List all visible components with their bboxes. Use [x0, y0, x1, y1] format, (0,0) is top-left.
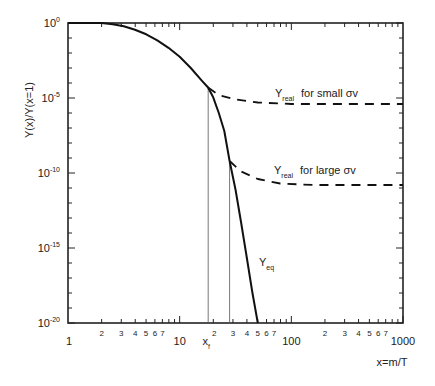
x-minor-tick-label: 5 — [367, 329, 372, 338]
x-minor-tick-label: 2 — [323, 329, 328, 338]
x-minor-tick-label: 4 — [245, 329, 250, 338]
x-minor-tick-label: 5 — [144, 329, 149, 338]
x-minor-tick-label: 2 — [212, 329, 217, 338]
chart-canvas: 234567234567234567110100100010010-510-10… — [0, 0, 435, 386]
x-minor-tick-label: 7 — [383, 329, 388, 338]
x-minor-tick-label: 4 — [356, 329, 361, 338]
axis-labels: 234567234567234567110100100010010-510-10… — [23, 16, 415, 368]
freeze-out-label: xf — [202, 335, 210, 350]
small-sigma-label: Yrealfor small σv — [275, 87, 358, 102]
x-major-tick-label: 1 — [66, 335, 72, 347]
x-minor-tick-label: 3 — [342, 329, 347, 338]
x-minor-tick-label: 7 — [272, 329, 277, 338]
y-eq-label: Yeq — [259, 256, 274, 272]
x-minor-tick-label: 4 — [133, 329, 138, 338]
x-minor-tick-label: 6 — [376, 329, 381, 338]
x-minor-tick-label: 6 — [153, 329, 158, 338]
y-major-tick-label: 10-20 — [38, 316, 60, 329]
x-minor-tick-label: 3 — [119, 329, 124, 338]
x-axis-title: x=m/T — [377, 356, 408, 368]
x-major-tick-label: 100 — [282, 335, 300, 347]
x-major-tick-label: 10 — [174, 335, 186, 347]
y-major-tick-label: 10-10 — [38, 166, 60, 179]
x-minor-tick-label: 5 — [255, 329, 260, 338]
x-minor-tick-label: 7 — [160, 329, 165, 338]
y-axis-title: Y(x)/Y(x=1) — [23, 82, 35, 138]
large-sigma-label: Yrealfor large σv — [274, 164, 356, 179]
freeze-out-chart: 234567234567234567110100100010010-510-10… — [0, 0, 435, 386]
x-minor-tick-label: 2 — [99, 329, 104, 338]
x-minor-tick-label: 3 — [231, 329, 236, 338]
y-major-tick-label: 100 — [44, 16, 60, 29]
x-major-tick-label: 1000 — [391, 335, 415, 347]
y-major-tick-label: 10-15 — [38, 241, 60, 254]
x-minor-tick-label: 6 — [264, 329, 269, 338]
y-major-tick-label: 10-5 — [42, 91, 61, 104]
